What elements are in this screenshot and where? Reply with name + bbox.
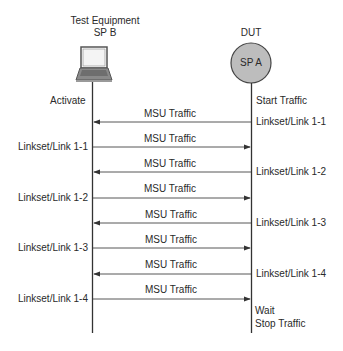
message-label: MSU Traffic [131, 234, 211, 246]
right-note: Linkset/Link 1-4 [256, 268, 326, 280]
activate-label: Activate [50, 95, 86, 107]
message-label: MSU Traffic [130, 133, 210, 145]
message-label: MSU Traffic [130, 108, 210, 120]
right-note: Linkset/Link 1-2 [256, 166, 326, 178]
laptop-icon [76, 47, 112, 82]
title-line-2: SP B [52, 27, 158, 39]
right-participant-title: DUT [231, 27, 271, 39]
message-label: MSU Traffic [131, 284, 211, 296]
stop-traffic-label: Stop Traffic [255, 318, 305, 330]
left-note: Linkset/Link 1-1 [18, 141, 88, 153]
left-note: Linkset/Link 1-3 [18, 242, 88, 254]
title-line-1: Test Equipment [52, 15, 158, 27]
dut-node-label: SP A [231, 57, 271, 69]
start-traffic-label: Start Traffic [256, 95, 307, 107]
message-label: MSU Traffic [131, 259, 211, 271]
message-label: MSU Traffic [131, 209, 211, 221]
message-label: MSU Traffic [130, 158, 210, 170]
left-note: Linkset/Link 1-2 [18, 192, 88, 204]
left-note: Linkset/Link 1-4 [18, 293, 88, 305]
right-note: Linkset/Link 1-3 [256, 217, 326, 229]
left-participant-title: Test Equipment SP B [52, 15, 158, 39]
right-note: Linkset/Link 1-1 [256, 116, 326, 128]
wait-label: Wait [255, 305, 275, 317]
message-label: MSU Traffic [130, 183, 210, 195]
